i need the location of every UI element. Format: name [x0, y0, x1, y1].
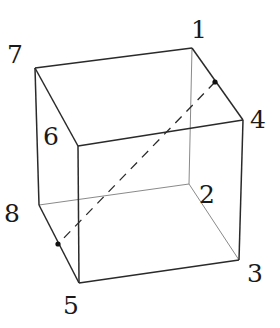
vertex-label-2: 2 — [199, 180, 215, 209]
edge-3-4 — [239, 120, 243, 260]
vertex-label-6: 6 — [43, 122, 59, 151]
edge-4-6 — [78, 120, 243, 146]
vertex-label-4: 4 — [250, 105, 266, 134]
dashed-diagonal — [58, 82, 215, 244]
hidden-edge-1-2 — [189, 48, 192, 184]
point-on-edge-8-5-dot — [55, 241, 60, 246]
vertex-label-3: 3 — [247, 259, 263, 288]
edge-5-6 — [78, 146, 79, 283]
vertex-label-1: 1 — [191, 15, 207, 44]
vertex-label-8: 8 — [4, 199, 20, 228]
visible-edges — [35, 48, 243, 283]
edge-7-8 — [35, 68, 39, 205]
edge-5-3 — [79, 260, 239, 283]
cube-diagram: 12345678 — [0, 0, 280, 328]
vertex-label-7: 7 — [7, 40, 23, 69]
point-on-edge-1-4-dot — [212, 79, 217, 84]
edge-1-4 — [192, 48, 243, 120]
edge-7-1 — [35, 48, 192, 68]
vertex-label-5: 5 — [63, 291, 79, 320]
hidden-edges — [39, 48, 239, 260]
